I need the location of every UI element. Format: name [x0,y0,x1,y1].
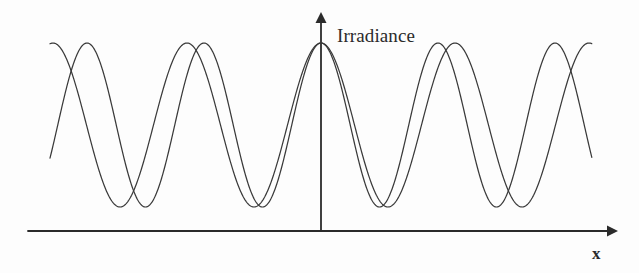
irradiance-fringe-figure: Irradiance x [0,0,639,273]
x-axis-label: x [592,245,601,262]
y-axis-label: Irradiance [337,26,415,45]
x-axis-arrowhead [607,226,618,237]
y-axis-arrowhead [316,12,327,23]
figure-canvas [0,0,639,273]
